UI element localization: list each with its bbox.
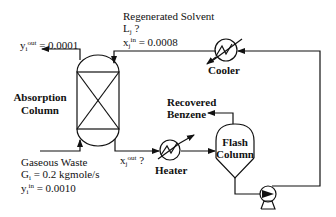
recovered-benzene-line1: Recovered <box>167 96 216 108</box>
absorption-column-vessel <box>77 55 119 146</box>
liquid-outlet-label: xjout ? <box>120 152 144 170</box>
regenerated-solvent-title: Regenerated Solvent <box>123 10 214 22</box>
flash-column-label-line1: Flash <box>214 136 256 148</box>
recovered-benzene-stream <box>208 113 233 124</box>
solvent-concentration-label: xjin = 0.0008 <box>123 34 178 52</box>
cooler-exchanger-icon <box>212 39 242 61</box>
recycle-stream <box>238 51 320 186</box>
flash-bottoms-stream <box>235 178 260 194</box>
absorption-column-label-line1: Absorption <box>6 91 74 103</box>
process-flow-diagram: yiout = 0.0001 Regenerated Solvent Lj ? … <box>0 0 336 217</box>
heater-exchanger-icon <box>158 140 180 160</box>
solvent-inlet-stream <box>114 51 216 63</box>
gaseous-waste-concentration-label: yiin = 0.0010 <box>21 180 76 198</box>
liquid-outlet-stream <box>115 139 159 151</box>
flash-column-label-line2: Column <box>214 148 256 160</box>
cooler-label: Cooler <box>208 64 240 76</box>
heater-label: Heater <box>155 164 187 176</box>
recovered-benzene-line2: Benzene <box>167 108 206 120</box>
absorption-column-label-line2: Column <box>6 104 74 116</box>
gaseous-waste-stream <box>40 140 80 151</box>
gaseous-waste-title: Gaseous Waste <box>21 156 87 168</box>
gas-outlet-label: yiout = 0.0001 <box>20 37 78 55</box>
